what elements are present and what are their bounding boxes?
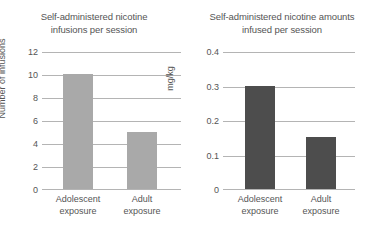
y-axis-title-infusions: Number of infusions (0, 38, 7, 118)
chart-title-infusions: Self-administered nicotine infusions per… (6, 11, 182, 36)
y-tick-label-0-2: 0.2 (206, 117, 219, 126)
chart-title-line-2: infusions per session (51, 24, 138, 35)
x-axis-line-amounts (223, 189, 355, 190)
chart-title-amounts: Self-administered nicotine amounts infus… (194, 11, 370, 36)
y-axis-title-amounts: mg/kg (166, 66, 175, 91)
plot-area-infusions: 12 10 8 6 4 2 0 Adolescent exposure Adul… (47, 52, 181, 190)
x-category-label-adolescent: Adolescent exposure (238, 194, 283, 217)
chart-title-line-1: Self-administered nicotine (41, 11, 148, 22)
y-tick-label-2: 2 (33, 163, 38, 172)
y-tick-label-0-1: 0.1 (206, 151, 219, 160)
gridline-12 (42, 52, 181, 53)
bar-adult-exposure (127, 132, 157, 190)
chart-panel-amounts: Self-administered nicotine amounts infus… (188, 0, 376, 228)
x-category-line-1: Adult (132, 194, 153, 204)
chart-title-line-1: Self-administered nicotine amounts (210, 11, 355, 22)
y-tick-label-0: 0 (214, 186, 219, 195)
bar-adolescent-exposure (63, 74, 93, 189)
plot-area-amounts: 0.4 0.3 0.2 0.1 0 Adolescent exposure Ad… (228, 52, 355, 190)
y-tick-label-8: 8 (33, 94, 38, 103)
figure: Self-administered nicotine infusions per… (0, 0, 376, 228)
gridline-0-2 (223, 121, 355, 122)
x-category-label-adult: Adult exposure (123, 194, 160, 217)
x-category-line-2: exposure (123, 206, 160, 216)
x-category-line-2: exposure (59, 206, 96, 216)
y-tick-label-12: 12 (28, 48, 38, 57)
x-category-line-1: Adult (311, 194, 332, 204)
y-tick-label-0-4: 0.4 (206, 48, 219, 57)
y-tick-label-0-3: 0.3 (206, 82, 219, 91)
x-category-label-adolescent: Adolescent exposure (56, 194, 101, 217)
gridline-0-3 (223, 87, 355, 88)
y-tick-label-0: 0 (33, 186, 38, 195)
y-tick-label-6: 6 (33, 117, 38, 126)
x-category-line-1: Adolescent (56, 194, 101, 204)
x-category-label-adult: Adult exposure (302, 194, 339, 217)
x-axis-line-infusions (42, 189, 181, 190)
x-category-line-2: exposure (302, 206, 339, 216)
y-tick-label-4: 4 (33, 140, 38, 149)
x-category-line-2: exposure (241, 206, 278, 216)
x-category-line-1: Adolescent (238, 194, 283, 204)
chart-panel-infusions: Self-administered nicotine infusions per… (0, 0, 188, 228)
y-tick-label-10: 10 (28, 71, 38, 80)
bar-adolescent-exposure (245, 86, 275, 190)
chart-title-line-2: infused per session (242, 24, 322, 35)
bar-adult-exposure (306, 137, 336, 189)
gridline-0-4 (223, 52, 355, 53)
